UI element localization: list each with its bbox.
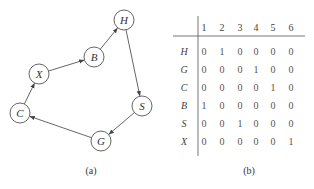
matrix-cell: 0 (271, 100, 276, 111)
node-s: S (132, 96, 152, 116)
node-x: X (29, 64, 49, 84)
node-label: G (97, 135, 105, 147)
matrix-rows: H010000G000100C000010B100000S001000X0000… (179, 46, 293, 147)
matrix-cell: 0 (271, 118, 276, 129)
node-g: G (91, 131, 111, 151)
matrix-cell: 0 (202, 46, 207, 57)
edge-b-to-h (100, 28, 117, 49)
matrix-cell: 0 (271, 136, 276, 147)
matrix-cell: 1 (202, 100, 207, 111)
column-headers: 123456 (202, 22, 294, 33)
figure: HBXCGS (a) 123456 H010000G000100C000010B… (0, 0, 314, 189)
matrix-cell: 0 (220, 82, 225, 93)
row-label: C (181, 82, 188, 93)
matrix-cell: 0 (220, 64, 225, 75)
node-label: S (139, 100, 145, 112)
column-header: 4 (254, 22, 259, 33)
matrix-cell: 0 (202, 82, 207, 93)
node-b: B (84, 47, 104, 67)
node-c: C (10, 103, 30, 123)
matrix-cell: 1 (289, 136, 294, 147)
matrix-cell: 0 (202, 118, 207, 129)
matrix-cell: 0 (271, 46, 276, 57)
matrix-cell: 0 (254, 136, 259, 147)
matrix-cell: 0 (254, 118, 259, 129)
column-header: 3 (238, 22, 243, 33)
node-label: B (91, 51, 98, 63)
matrix-cell: 0 (238, 136, 243, 147)
column-header: 1 (202, 22, 207, 33)
matrix-row-g: G000100 (180, 64, 293, 75)
matrix-row-h: H010000 (179, 46, 293, 57)
matrix-cell: 0 (271, 64, 276, 75)
edge-s-to-g (109, 113, 134, 135)
matrix-cell: 0 (289, 64, 294, 75)
node-h: H (114, 10, 134, 30)
node-label: X (35, 68, 44, 80)
graph-panel-a: HBXCGS (a) (10, 10, 152, 177)
graph-nodes: HBXCGS (10, 10, 152, 151)
node-label: C (16, 107, 24, 119)
matrix-cell: 0 (220, 100, 225, 111)
edge-g-to-c (30, 116, 92, 137)
matrix-cell: 0 (220, 118, 225, 129)
matrix-cell: 0 (238, 100, 243, 111)
matrix-cell: 0 (254, 46, 259, 57)
caption-a: (a) (85, 165, 96, 177)
matrix-cell: 1 (254, 64, 259, 75)
row-label: S (182, 118, 187, 129)
matrix-cell: 0 (202, 136, 207, 147)
matrix-cell: 0 (289, 46, 294, 57)
matrix-cell: 0 (238, 82, 243, 93)
column-header: 6 (289, 22, 294, 33)
matrix-cell: 1 (271, 82, 276, 93)
matrix-panel-b: 123456 H010000G000100C000010B100000S0010… (173, 16, 305, 177)
matrix-row-x: X000001 (180, 136, 294, 147)
row-label: H (179, 46, 188, 57)
row-label: B (181, 100, 187, 111)
matrix-cell: 0 (202, 64, 207, 75)
edge-x-to-b (49, 60, 84, 71)
matrix-cell: 1 (220, 46, 225, 57)
matrix-cell: 0 (220, 136, 225, 147)
matrix-cell: 0 (254, 100, 259, 111)
matrix-cell: 0 (238, 64, 243, 75)
row-label: X (180, 136, 188, 147)
column-header: 5 (271, 22, 276, 33)
caption-b: (b) (243, 165, 255, 177)
matrix-cell: 0 (289, 82, 294, 93)
node-label: H (119, 14, 129, 26)
matrix-cell: 0 (289, 100, 294, 111)
row-label: G (180, 64, 187, 75)
matrix-cell: 0 (254, 82, 259, 93)
matrix-cell: 0 (238, 46, 243, 57)
matrix-cell: 1 (238, 118, 243, 129)
column-header: 2 (220, 22, 225, 33)
edge-c-to-x (24, 83, 34, 104)
matrix-cell: 0 (289, 118, 294, 129)
edge-h-to-s (126, 30, 140, 96)
